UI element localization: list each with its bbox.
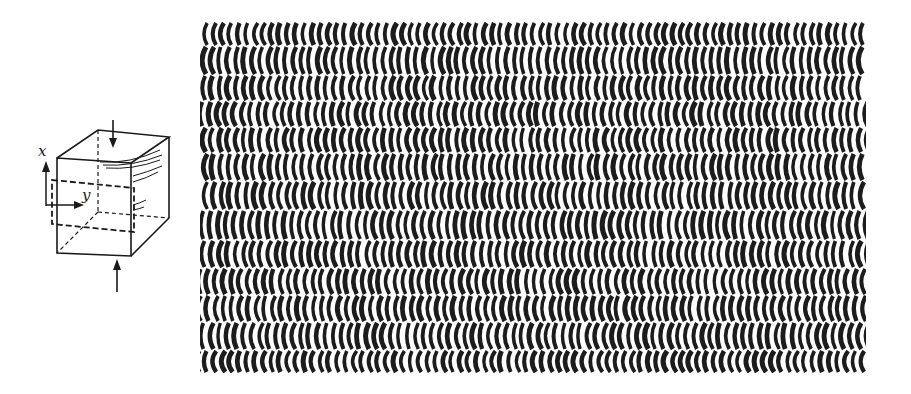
fringe-band — [200, 102, 868, 126]
fringe-band — [196, 182, 864, 209]
top-compression-arrow — [109, 120, 117, 148]
fringe-band — [196, 351, 864, 372]
fringe-band — [196, 241, 869, 267]
bottom-compression-arrow — [113, 259, 121, 292]
cube-outline — [57, 130, 169, 256]
fringe-band — [196, 76, 860, 100]
fringe-band — [196, 47, 862, 74]
fringe-band — [196, 154, 862, 180]
fringe-band — [196, 211, 868, 239]
fringe-band — [197, 296, 865, 321]
fringe-band — [196, 323, 869, 349]
x-axis-label: x — [38, 142, 47, 160]
fringe-bands — [196, 23, 869, 372]
fringe-band — [196, 23, 863, 45]
section-plane — [52, 180, 134, 232]
x-axis-arrow — [42, 161, 50, 206]
interference-fringe-pattern — [196, 16, 876, 381]
y-axis-label: y — [81, 186, 91, 204]
fringe-band — [198, 269, 865, 294]
specimen-cube-diagram: x y — [0, 0, 200, 394]
fringe-band — [196, 128, 869, 152]
